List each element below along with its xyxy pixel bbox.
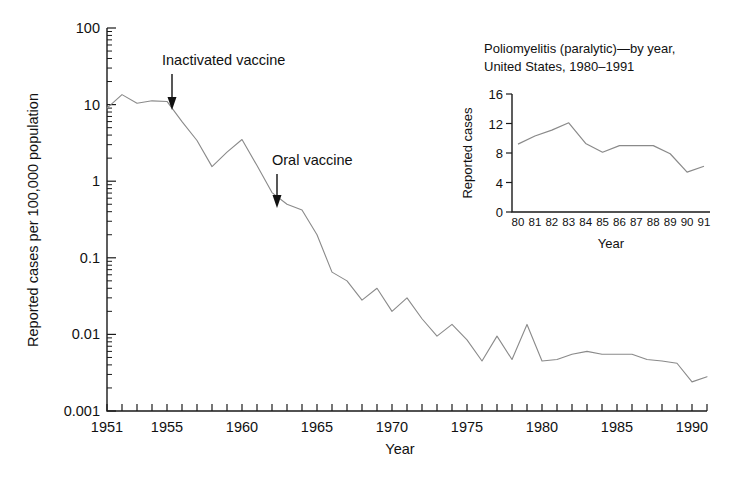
inset-title-line-1: Poliomyelitis (paralytic)—by year,	[484, 41, 675, 56]
inset-x-tick-label: 90	[681, 216, 694, 228]
inset-y-tick-label: 4	[496, 176, 503, 191]
main-x-tick-label: 1975	[451, 419, 483, 435]
main-x-tick-label: 1960	[226, 419, 258, 435]
inset-x-tick-label: 86	[613, 216, 626, 228]
polio-incidence-figure: 1001010.10.010.001 195119551960196519701…	[0, 0, 755, 480]
main-x-tick-label: 1965	[301, 419, 333, 435]
inset-title-line-2: United States, 1980–1991	[484, 59, 634, 74]
main-y-tick-label: 0.01	[72, 326, 100, 342]
inset-y-tick-label: 0	[496, 205, 503, 220]
annotation-oral-vaccine-label: Oral vaccine	[272, 152, 353, 168]
inset-x-tick-label: 83	[562, 216, 575, 228]
main-y-axis-title: Reported cases per 100,000 population	[25, 93, 41, 347]
inset-x-tick-label: 87	[630, 216, 643, 228]
inset-x-tick-label: 89	[664, 216, 677, 228]
inset-x-tick-label: 80	[512, 216, 525, 228]
main-y-tick-label: 1	[92, 173, 100, 189]
main-y-tick-label: 0.1	[80, 250, 100, 266]
main-y-tick-label: 100	[76, 20, 100, 36]
main-y-tick-label: 0.001	[64, 403, 100, 419]
inset-x-axis-title: Year	[598, 236, 625, 251]
inset-x-tick-label: 81	[529, 216, 542, 228]
main-x-axis-title: Year	[385, 441, 414, 457]
inset-x-tick-label: 84	[579, 216, 592, 228]
figure-root: 1001010.10.010.001 195119551960196519701…	[0, 0, 755, 480]
inset-x-tick-label: 88	[647, 216, 660, 228]
main-x-tick-label: 1951	[91, 419, 123, 435]
inset-y-tick-label: 16	[489, 87, 503, 102]
main-x-tick-label: 1980	[526, 419, 558, 435]
inset-y-axis-title: Reported cases	[460, 107, 475, 199]
inset-y-tick-label: 8	[496, 146, 503, 161]
main-x-tick-label: 1955	[151, 419, 183, 435]
inset-x-tick-label: 91	[698, 216, 711, 228]
inset-x-tick-label: 85	[596, 216, 609, 228]
main-y-tick-label: 10	[84, 97, 100, 113]
main-x-tick-label: 1990	[676, 419, 708, 435]
inset-x-tick-label: 82	[545, 216, 558, 228]
main-x-ticks	[107, 404, 707, 411]
main-x-tick-label: 1970	[376, 419, 408, 435]
inset-y-tick-label: 12	[489, 117, 503, 132]
main-x-tick-label: 1985	[601, 419, 633, 435]
annotation-inactivated-vaccine-label: Inactivated vaccine	[162, 52, 285, 68]
